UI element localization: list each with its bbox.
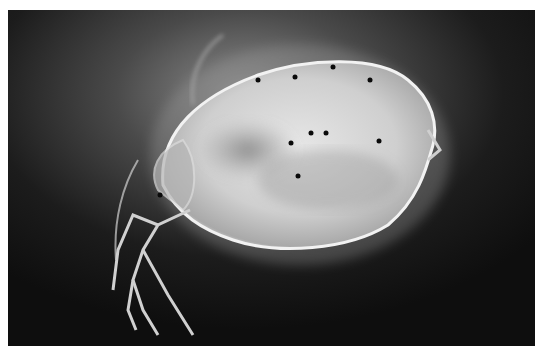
daphnia-illustration	[8, 10, 535, 346]
micrograph-photo	[8, 10, 535, 346]
